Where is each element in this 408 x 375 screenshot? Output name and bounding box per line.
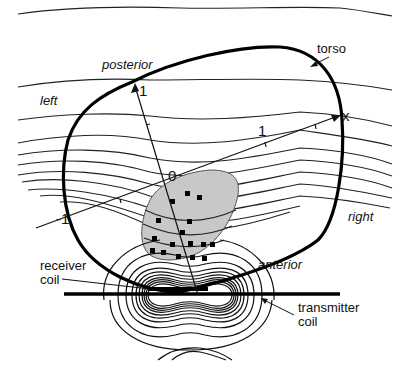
x-tick-1-label: 1 — [258, 122, 266, 139]
origin-label: 0 — [168, 167, 176, 184]
coil-field-contours — [104, 240, 275, 360]
posterior-label: posterior — [101, 57, 153, 72]
y-tick-1-label: 1 — [139, 82, 147, 99]
right-label: right — [348, 209, 375, 224]
torso-field-diagram: 1 0 1 -1 x posterior left right anterior… — [0, 0, 408, 375]
transmitter-coil-label-line1: transmitter — [298, 300, 360, 315]
transmitter-pointer-arrow — [264, 300, 294, 315]
receiver-coil-label-line2: coil — [40, 272, 60, 287]
anterior-label: anterior — [258, 257, 303, 272]
left-label: left — [40, 93, 59, 108]
x-tick-neg1-label: -1 — [56, 210, 69, 227]
x-axis-label: x — [342, 107, 350, 124]
torso-label: torso — [317, 41, 346, 56]
receiver-coil-label-line1: receiver — [40, 258, 87, 273]
transmitter-coil-label-line2: coil — [298, 314, 318, 329]
